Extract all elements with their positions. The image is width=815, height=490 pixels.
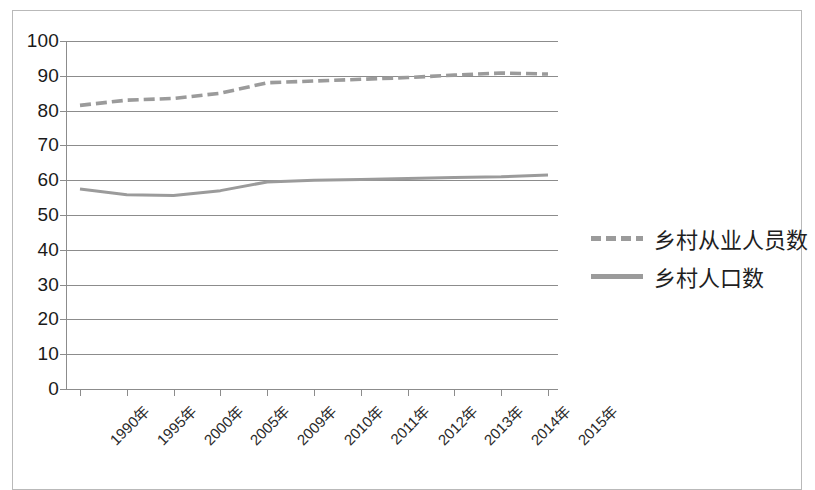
y-tick-label: 10 [37, 343, 59, 365]
series-line-2 [80, 175, 548, 196]
x-tick-label: 2015年 [572, 400, 621, 449]
x-tick-mark [361, 389, 362, 396]
x-tick-mark [548, 389, 549, 396]
x-tick-label: 1990年 [104, 400, 153, 449]
legend-swatch-dashed-icon [591, 236, 643, 241]
x-tick-label: 2005年 [245, 400, 294, 449]
x-tick-mark [220, 389, 221, 396]
x-tick-label: 2000年 [198, 400, 247, 449]
x-tick-mark [80, 389, 81, 396]
y-tick-label: 70 [37, 134, 59, 156]
y-tick-label: 100 [27, 30, 59, 52]
legend-label-rural-employed: 乡村从业人员数 [654, 222, 808, 254]
x-tick-label: 2009年 [291, 400, 340, 449]
legend-label-rural-population: 乡村人口数 [654, 260, 764, 292]
x-tick-mark [267, 389, 268, 396]
series-line-1 [80, 73, 548, 105]
chart-legend: 乡村从业人员数 乡村人口数 [591, 219, 815, 295]
y-tick-label: 80 [37, 100, 59, 122]
y-tick-label: 20 [37, 308, 59, 330]
y-tick-label: 30 [37, 274, 59, 296]
x-tick-label: 2012年 [432, 400, 481, 449]
x-tick-label: 2013年 [479, 400, 528, 449]
series-lines-svg [66, 41, 558, 389]
y-tick-label: 40 [37, 239, 59, 261]
x-tick-label: 2014年 [525, 400, 574, 449]
x-tick-label: 2010年 [338, 400, 387, 449]
y-tick-label: 90 [37, 65, 59, 87]
legend-item-rural-employed: 乡村从业人员数 [591, 219, 815, 257]
y-tick-mark [60, 389, 66, 390]
x-tick-label: 1995年 [151, 400, 200, 449]
x-tick-mark [454, 389, 455, 396]
chart-frame: 1009080706050403020100 1990年1995年2000年20… [12, 10, 802, 490]
x-tick-mark [408, 389, 409, 396]
x-tick-mark [174, 389, 175, 396]
legend-item-rural-population: 乡村人口数 [591, 257, 815, 295]
y-tick-label: 0 [48, 378, 59, 400]
gridline [66, 389, 558, 390]
y-tick-label: 60 [37, 169, 59, 191]
y-tick-label: 50 [37, 204, 59, 226]
x-tick-label: 2011年 [385, 400, 433, 448]
x-tick-mark [127, 389, 128, 396]
x-tick-mark [501, 389, 502, 396]
plot-area: 1009080706050403020100 1990年1995年2000年20… [66, 41, 558, 389]
legend-swatch-solid-icon [591, 274, 643, 279]
x-tick-mark [314, 389, 315, 396]
